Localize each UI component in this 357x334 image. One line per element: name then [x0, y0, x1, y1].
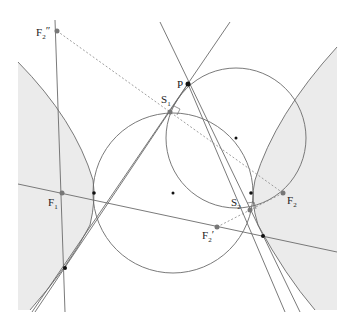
- point-f2pp: [55, 29, 60, 34]
- label-f2pp: F2″: [36, 24, 50, 41]
- center-small-circle: [235, 137, 238, 140]
- right-hyperbola-shaded-region: [253, 47, 337, 310]
- label-f2p: F2′: [202, 228, 214, 244]
- point-p: [186, 82, 191, 87]
- point-f2p: [215, 225, 220, 230]
- tangent-point-right-lower: [261, 234, 265, 238]
- label-p: P: [177, 78, 183, 90]
- point-s2: [248, 208, 253, 213]
- tangent-point-left-lower: [63, 266, 67, 270]
- point-f2: [281, 191, 286, 196]
- left-vertex-point: [92, 191, 96, 195]
- point-f1: [60, 191, 65, 196]
- label-s2: S2: [231, 196, 241, 211]
- geometry-diagram: F2″ F1 F2 F2′ S1 S2 P: [0, 0, 357, 334]
- point-s1: [168, 110, 173, 115]
- right-vertex-point: [249, 191, 253, 195]
- center-big-circle: [172, 192, 175, 195]
- label-s1: S1: [161, 93, 171, 108]
